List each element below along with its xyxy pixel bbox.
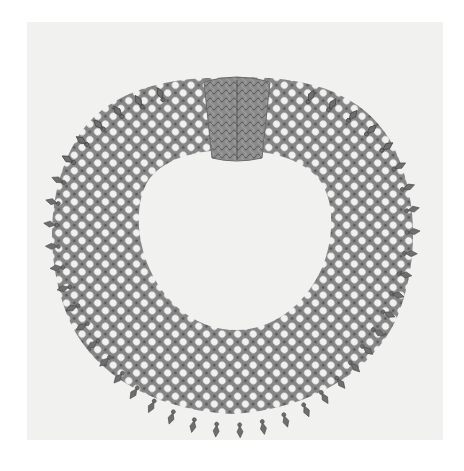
necklace-mesh — [0, 0, 464, 471]
necklace-illustration — [0, 0, 464, 471]
filigree-clasp — [204, 77, 270, 161]
